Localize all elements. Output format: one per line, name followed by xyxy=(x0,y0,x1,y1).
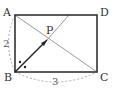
geometry-diagram: A D B C P 2 3 xyxy=(0,0,116,93)
label-b: B xyxy=(4,71,12,84)
label-c: C xyxy=(100,71,108,84)
label-d: D xyxy=(100,6,109,19)
angle-mark-dot xyxy=(24,66,26,68)
label-length-bc: 3 xyxy=(52,76,58,87)
label-a: A xyxy=(2,6,12,19)
dimension-arc-ab xyxy=(9,15,16,72)
diagonal-ac xyxy=(15,15,97,72)
label-p: P xyxy=(46,24,54,37)
angle-mark-dot xyxy=(19,61,21,63)
bisector-bp xyxy=(15,40,47,72)
label-length-ab: 2 xyxy=(3,38,9,49)
